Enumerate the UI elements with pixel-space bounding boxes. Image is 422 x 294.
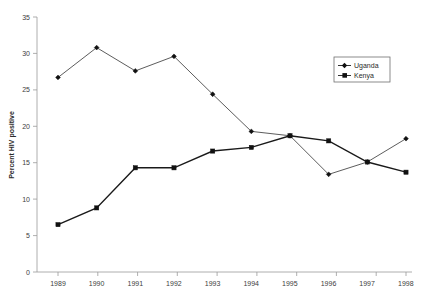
x-tick-label: 1994 xyxy=(243,280,259,287)
y-tick-label: 20 xyxy=(22,123,30,130)
data-point-uganda-1998[interactable] xyxy=(404,136,409,141)
x-tick-label: 1991 xyxy=(128,280,144,287)
chart-legend[interactable]: Uganda Kenya xyxy=(334,57,390,82)
y-axis-ticks xyxy=(33,17,37,272)
x-tick-label: 1992 xyxy=(166,280,182,287)
y-tick-label: 15 xyxy=(22,159,30,166)
y-tick-label: 25 xyxy=(22,86,30,93)
data-point-uganda-1991[interactable] xyxy=(133,69,138,74)
y-tick-label: 35 xyxy=(22,14,30,21)
legend-label-kenya: Kenya xyxy=(354,72,374,80)
data-point-kenya-1994[interactable] xyxy=(249,145,253,149)
x-tick-label: 1995 xyxy=(282,280,298,287)
y-tick-label: 30 xyxy=(22,50,30,57)
y-axis-title: Percent HIV positive xyxy=(8,111,16,179)
x-tick-label: 1989 xyxy=(50,280,66,287)
y-tick-label: 10 xyxy=(22,196,30,203)
chart-container: 35 30 25 20 15 10 5 0 Percent HIV positi… xyxy=(0,0,422,294)
x-tick-label: 1996 xyxy=(321,280,337,287)
data-point-kenya-1990[interactable] xyxy=(95,206,99,210)
data-point-kenya-1995[interactable] xyxy=(288,134,292,138)
data-point-kenya-1992[interactable] xyxy=(172,166,176,170)
data-point-kenya-1989[interactable] xyxy=(56,223,60,227)
x-tick-label: 1998 xyxy=(398,280,414,287)
x-axis-tick-labels: 1989 1990 1991 1992 1993 1994 1995 1996 … xyxy=(50,280,413,287)
legend-marker-kenya xyxy=(342,73,347,78)
data-point-kenya-1998[interactable] xyxy=(404,170,408,174)
data-point-kenya-1993[interactable] xyxy=(211,149,215,153)
data-point-kenya-1996[interactable] xyxy=(327,139,331,143)
series-line-kenya xyxy=(58,136,406,225)
x-tick-label: 1990 xyxy=(89,280,105,287)
x-axis-ticks xyxy=(58,272,406,276)
line-chart: 35 30 25 20 15 10 5 0 Percent HIV positi… xyxy=(0,0,422,294)
data-point-kenya-1997[interactable] xyxy=(365,160,369,164)
x-tick-label: 1997 xyxy=(359,280,375,287)
y-axis-tick-labels: 35 30 25 20 15 10 5 0 xyxy=(22,14,30,276)
legend-label-uganda: Uganda xyxy=(354,62,379,70)
y-tick-label: 0 xyxy=(26,269,30,276)
x-tick-label: 1993 xyxy=(205,280,221,287)
data-point-kenya-1991[interactable] xyxy=(133,166,137,170)
y-tick-label: 5 xyxy=(26,232,30,239)
